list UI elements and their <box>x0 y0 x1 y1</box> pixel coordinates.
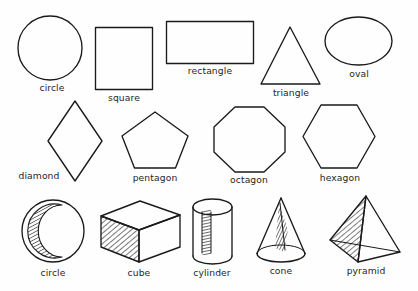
shape-hexagon <box>303 105 375 168</box>
shape-pentagon <box>122 112 188 168</box>
label-cylinder: cylinder <box>193 268 230 277</box>
shapes-drawing <box>0 0 418 291</box>
shape-rectangle <box>167 22 254 64</box>
label-cube: cube <box>128 268 151 277</box>
label-diamond: diamond <box>19 171 60 180</box>
label-octagon: octagon <box>230 175 268 184</box>
label-square: square <box>108 93 140 102</box>
shape-circle <box>18 16 82 80</box>
label-rectangle: rectangle <box>188 66 232 75</box>
label-hexagon: hexagon <box>320 173 360 182</box>
shape-pyramid <box>330 196 400 262</box>
label-oval: oval <box>349 69 369 78</box>
shape-cylinder <box>193 199 232 264</box>
shape-diamond <box>48 101 102 181</box>
shape-sphere <box>22 200 84 262</box>
label-pyramid: pyramid <box>347 266 386 275</box>
shape-oval <box>325 17 392 65</box>
shape-cone <box>257 198 305 262</box>
label-sphere: circle <box>40 268 65 277</box>
shape-cube <box>98 201 180 266</box>
label-circle: circle <box>39 83 64 92</box>
shape-triangle <box>261 27 320 84</box>
shape-square <box>96 28 153 90</box>
shapes-figure: circle square rectangle triangle oval di… <box>0 0 418 291</box>
label-cone: cone <box>270 266 293 275</box>
label-triangle: triangle <box>273 88 309 97</box>
shape-octagon <box>214 107 285 172</box>
label-pentagon: pentagon <box>133 173 178 182</box>
